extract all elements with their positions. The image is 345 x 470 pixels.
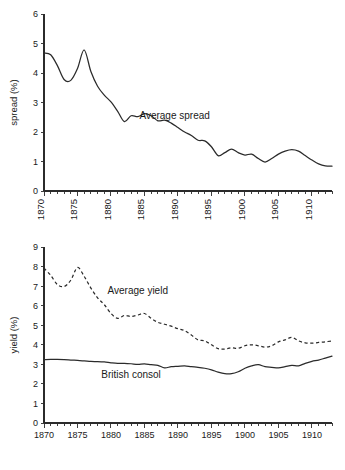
x-tick-label: 1870: [35, 199, 46, 220]
y-tick-label: 1: [33, 157, 38, 167]
x-tick-label: 1880: [102, 199, 113, 220]
x-tick-label: 1910: [302, 430, 322, 440]
y-tick-label: 3: [33, 98, 38, 108]
chart-panel-yield: 0123456789187018751880188518901895190019…: [0, 235, 345, 470]
y-tick-label: 3: [33, 360, 38, 370]
x-tick-label: 1875: [68, 199, 79, 220]
y-axis-title: spread (%): [8, 79, 19, 125]
x-tick-label: 1885: [134, 430, 154, 440]
x-tick-label: 1885: [135, 199, 146, 220]
annotation-label: Average yield: [108, 285, 168, 296]
x-tick-label: 1900: [236, 199, 247, 220]
y-tick-label: 1: [33, 399, 38, 409]
y-tick-label: 0: [33, 186, 38, 196]
annotation-label: British consol: [101, 369, 160, 380]
y-tick-label: 4: [33, 68, 38, 78]
y-tick-label: 6: [33, 9, 38, 19]
x-tick-label: 1900: [235, 430, 255, 440]
y-tick-label: 9: [33, 242, 38, 252]
y-tick-label: 5: [33, 321, 38, 331]
y-tick-label: 4: [33, 340, 38, 350]
figure-container: 0123456187018751880188518901895190019051…: [0, 0, 345, 470]
series-line-british-consol: [44, 356, 332, 374]
x-tick-label: 1895: [201, 430, 221, 440]
y-axis-title: yield (%): [8, 317, 19, 354]
yield-chart-svg: 0123456789187018751880188518901895190019…: [0, 235, 345, 470]
y-tick-label: 2: [33, 379, 38, 389]
y-tick-label: 6: [33, 301, 38, 311]
x-tick-label: 1870: [34, 430, 54, 440]
x-tick-label: 1895: [202, 199, 213, 220]
y-tick-label: 7: [33, 282, 38, 292]
x-tick-label: 1880: [101, 430, 121, 440]
y-tick-label: 8: [33, 262, 38, 272]
x-tick-label: 1890: [168, 430, 188, 440]
x-tick-label: 1875: [67, 430, 87, 440]
y-tick-label: 2: [33, 127, 38, 137]
y-tick-label: 0: [33, 418, 38, 428]
x-tick-label: 1905: [268, 430, 288, 440]
y-tick-label: 5: [33, 39, 38, 49]
annotation-label: Average spread: [139, 110, 209, 121]
x-tick-label: 1910: [303, 199, 314, 220]
series-line-average-spread: [44, 50, 332, 166]
series-line-average-yield: [44, 267, 332, 349]
x-tick-label: 1905: [269, 199, 280, 220]
chart-panel-spread: 0123456187018751880188518901895190019051…: [0, 0, 345, 235]
spread-chart-svg: 0123456187018751880188518901895190019051…: [0, 0, 345, 235]
x-tick-label: 1890: [169, 199, 180, 220]
